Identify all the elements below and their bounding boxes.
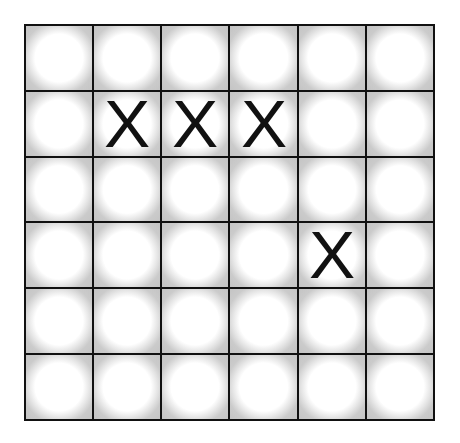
board-cell-r5-c3[interactable] bbox=[162, 289, 228, 353]
board-cell-r4-c5[interactable]: X bbox=[299, 223, 365, 287]
board-cell-r6-c4[interactable] bbox=[230, 355, 296, 419]
board-cell-r5-c5[interactable] bbox=[299, 289, 365, 353]
board-cell-r4-c1[interactable] bbox=[26, 223, 92, 287]
board-cell-r1-c6[interactable] bbox=[367, 26, 433, 90]
board-cell-r6-c1[interactable] bbox=[26, 355, 92, 419]
board-cell-r6-c3[interactable] bbox=[162, 355, 228, 419]
cell-mark: X bbox=[172, 92, 218, 156]
board-cell-r2-c6[interactable] bbox=[367, 92, 433, 156]
board-cell-r1-c5[interactable] bbox=[299, 26, 365, 90]
board-cell-r2-c3[interactable]: X bbox=[162, 92, 228, 156]
board-cell-r3-c1[interactable] bbox=[26, 158, 92, 222]
board-cell-r2-c4[interactable]: X bbox=[230, 92, 296, 156]
board-cell-r1-c1[interactable] bbox=[26, 26, 92, 90]
board-cell-r3-c2[interactable] bbox=[94, 158, 160, 222]
board-cell-r4-c2[interactable] bbox=[94, 223, 160, 287]
cell-mark: X bbox=[104, 92, 150, 156]
board-cell-r6-c5[interactable] bbox=[299, 355, 365, 419]
board-cell-r4-c6[interactable] bbox=[367, 223, 433, 287]
board-cell-r2-c2[interactable]: X bbox=[94, 92, 160, 156]
board-cell-r1-c2[interactable] bbox=[94, 26, 160, 90]
board-cell-r4-c3[interactable] bbox=[162, 223, 228, 287]
board-cell-r6-c6[interactable] bbox=[367, 355, 433, 419]
board-cell-r5-c6[interactable] bbox=[367, 289, 433, 353]
board-cell-r3-c6[interactable] bbox=[367, 158, 433, 222]
board-cell-r4-c4[interactable] bbox=[230, 223, 296, 287]
game-board: XXXX bbox=[24, 24, 435, 421]
board-cell-r5-c2[interactable] bbox=[94, 289, 160, 353]
board-cell-r3-c3[interactable] bbox=[162, 158, 228, 222]
board-cell-r1-c4[interactable] bbox=[230, 26, 296, 90]
board-cell-r5-c1[interactable] bbox=[26, 289, 92, 353]
board-cell-r2-c5[interactable] bbox=[299, 92, 365, 156]
board-cell-r1-c3[interactable] bbox=[162, 26, 228, 90]
board-cell-r6-c2[interactable] bbox=[94, 355, 160, 419]
board-cell-r3-c5[interactable] bbox=[299, 158, 365, 222]
board-cell-r5-c4[interactable] bbox=[230, 289, 296, 353]
board-cell-r2-c1[interactable] bbox=[26, 92, 92, 156]
cell-mark: X bbox=[240, 92, 286, 156]
cell-mark: X bbox=[309, 223, 355, 287]
board-cell-r3-c4[interactable] bbox=[230, 158, 296, 222]
